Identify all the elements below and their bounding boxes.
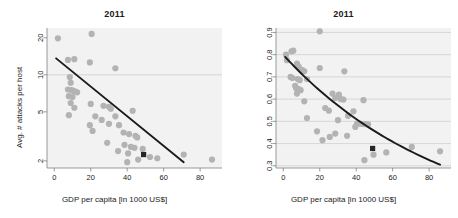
data-point <box>294 90 300 96</box>
data-point <box>65 57 71 63</box>
data-point <box>125 150 131 156</box>
data-point <box>437 148 443 154</box>
data-point <box>87 122 93 128</box>
data-point <box>131 145 137 151</box>
panel-left-x-axis-label: GDP per capita [in 1000 US$] <box>0 195 229 204</box>
data-point <box>290 48 296 54</box>
data-point <box>100 103 106 109</box>
x-tick-label: 40 <box>123 173 131 182</box>
data-point <box>147 154 153 160</box>
data-point <box>108 106 114 112</box>
y-tick-label: 10 <box>37 71 46 79</box>
data-point <box>319 137 325 143</box>
data-point <box>301 98 307 104</box>
data-point <box>317 65 323 71</box>
data-point <box>121 142 127 148</box>
data-point <box>352 124 358 130</box>
data-point <box>71 56 77 62</box>
data-point <box>383 149 389 155</box>
data-point <box>115 148 121 154</box>
y-tick-label: 0.3 <box>266 161 275 171</box>
data-point <box>340 96 346 102</box>
y-tick-label: 20 <box>37 34 46 42</box>
data-point <box>126 131 132 137</box>
panel-right-plot: 0.30.40.50.60.70.80.9020406080 <box>229 0 458 218</box>
data-point <box>289 75 295 81</box>
data-point <box>341 68 347 74</box>
data-point <box>106 121 112 127</box>
data-point <box>360 97 366 103</box>
data-point <box>304 115 310 121</box>
y-tick-label: 2 <box>37 159 46 163</box>
y-tick-label: 0.5 <box>266 116 275 126</box>
data-point <box>332 130 338 136</box>
data-point <box>88 101 94 107</box>
data-point <box>327 134 333 140</box>
data-point <box>409 144 415 150</box>
data-point <box>335 117 341 123</box>
data-point <box>120 129 126 135</box>
data-point <box>71 105 77 111</box>
data-point <box>332 95 338 101</box>
highlight-square-marker <box>141 152 146 157</box>
data-point <box>317 28 323 34</box>
data-point <box>87 59 93 65</box>
x-tick-label: 60 <box>388 173 396 182</box>
y-tick-label: 0.7 <box>266 72 275 82</box>
data-point <box>135 156 141 162</box>
data-point <box>297 77 303 83</box>
data-point <box>344 133 350 139</box>
data-point <box>370 152 376 158</box>
y-tick-label: 0.9 <box>266 27 275 37</box>
data-point <box>361 157 367 163</box>
panel-left: 2011 251020020406080 Avg. # attacks per … <box>0 0 229 218</box>
x-tick-label: 0 <box>52 173 56 182</box>
data-point <box>112 65 118 71</box>
data-point <box>350 108 356 114</box>
data-point <box>74 89 80 95</box>
data-point <box>209 156 215 162</box>
panel-left-plot: 251020020406080 <box>0 0 229 218</box>
data-point <box>55 35 61 41</box>
data-point <box>326 108 332 114</box>
data-point <box>314 128 320 134</box>
highlight-square-marker <box>370 146 375 151</box>
x-tick-label: 40 <box>352 173 360 182</box>
data-point <box>124 159 130 165</box>
data-point <box>104 140 110 146</box>
x-tick-label: 80 <box>196 173 204 182</box>
data-point <box>99 117 105 123</box>
panel-right: 2011 0.30.40.50.60.70.80.9020406080 % at… <box>229 0 458 218</box>
data-point <box>89 31 95 37</box>
data-point <box>66 112 72 118</box>
x-tick-label: 20 <box>316 173 324 182</box>
data-point <box>130 108 136 114</box>
data-point <box>181 151 187 157</box>
data-point <box>112 113 118 119</box>
x-tick-label: 20 <box>87 173 95 182</box>
y-tick-label: 0.6 <box>266 94 275 104</box>
panel-right-x-axis-label: GDP per capita [in 1000 US$] <box>229 195 458 204</box>
data-point <box>116 122 122 128</box>
y-tick-label: 5 <box>37 110 46 114</box>
data-point <box>89 128 95 134</box>
data-point <box>140 146 146 152</box>
data-point <box>134 134 140 140</box>
data-point <box>92 113 98 119</box>
data-point <box>67 74 73 80</box>
data-point <box>69 94 75 100</box>
x-tick-label: 60 <box>159 173 167 182</box>
figure-two-panel-scatter: 2011 251020020406080 Avg. # attacks per … <box>0 0 458 218</box>
x-tick-label: 80 <box>425 173 433 182</box>
data-point <box>68 80 74 86</box>
y-tick-label: 0.8 <box>266 49 275 59</box>
x-tick-label: 0 <box>281 173 285 182</box>
panel-left-y-axis-label: Avg. # attacks per host <box>15 67 24 148</box>
y-tick-label: 0.4 <box>266 138 275 148</box>
data-point <box>154 155 160 161</box>
